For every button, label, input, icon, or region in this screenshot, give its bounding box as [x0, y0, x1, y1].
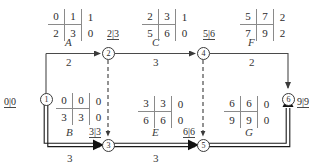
- matrix-cell: 3: [65, 25, 82, 41]
- matrix-cell: 7: [257, 9, 274, 25]
- node-1-time-label: 0|0: [4, 91, 16, 109]
- matrix-cell: 0: [48, 9, 65, 25]
- node-2[interactable]: 2: [102, 47, 115, 60]
- node-2-time-label: 2|3: [107, 23, 119, 41]
- node-3-label: 3: [107, 141, 111, 150]
- matrix-cell: 5: [240, 9, 257, 25]
- matrix-cell: 5: [142, 25, 159, 41]
- matrix-activity-f: 5 7 2 7 9 2: [240, 9, 291, 41]
- matrix-cell: 1: [176, 9, 193, 25]
- network-diagram: 1 2 3 4 5 6 A 2 C 3 F 2 B 3 E 3 G 0|0 2|…: [0, 0, 326, 168]
- matrix-cell: 0: [90, 109, 107, 125]
- matrix-activity-b: 0 0 0 3 3 0: [56, 93, 107, 125]
- node-1[interactable]: 1: [40, 93, 53, 106]
- matrix-cell: 6: [224, 96, 241, 112]
- activity-b-duration: 3: [67, 152, 73, 164]
- node-1-times: 0|0: [4, 96, 16, 108]
- matrix-cell: 0: [82, 25, 99, 41]
- matrix-cell: 3: [155, 96, 172, 112]
- node-6-times: 9|9: [297, 96, 309, 108]
- matrix-cell: 0: [258, 96, 275, 112]
- matrix-cell: 3: [56, 109, 73, 125]
- activity-c-duration: 3: [153, 56, 159, 68]
- matrix-cell: 0: [258, 112, 275, 128]
- matrix-cell: 9: [224, 112, 241, 128]
- node-6-time-label: 9|9: [297, 91, 309, 109]
- node-4-time-label: 5|6: [203, 23, 215, 41]
- node-2-label: 2: [107, 49, 111, 58]
- activity-a-duration: 2: [66, 56, 72, 68]
- matrix-cell: 3: [138, 96, 155, 112]
- node-4-times: 5|6: [203, 28, 215, 40]
- matrix-cell: 7: [240, 25, 257, 41]
- matrix-cell: 6: [138, 112, 155, 128]
- matrix-cell: 6: [241, 96, 258, 112]
- activity-f-duration: 2: [249, 56, 255, 68]
- activity-b-letter: B: [66, 126, 73, 138]
- node-2-times: 2|3: [107, 28, 119, 40]
- matrix-cell: 2: [274, 9, 291, 25]
- matrix-cell: 2: [274, 25, 291, 41]
- node-3[interactable]: 3: [102, 139, 115, 152]
- matrix-cell: 6: [159, 25, 176, 41]
- node-3-times: 3|3: [89, 126, 101, 138]
- matrix-cell: 0: [56, 93, 73, 109]
- matrix-cell: 0: [172, 96, 189, 112]
- matrix-cell: 3: [73, 109, 90, 125]
- node-4[interactable]: 4: [197, 47, 210, 60]
- matrix-cell: 0: [172, 112, 189, 128]
- matrix-cell: 2: [142, 9, 159, 25]
- matrix-cell: 6: [155, 112, 172, 128]
- node-5-label: 5: [202, 141, 206, 150]
- node-4-label: 4: [202, 49, 206, 58]
- matrix-cell: 0: [73, 93, 90, 109]
- node-1-label: 1: [45, 95, 49, 104]
- matrix-activity-g: 6 6 0 9 9 0: [224, 96, 275, 128]
- matrix-activity-e: 3 3 0 6 6 0: [138, 96, 189, 128]
- node-6[interactable]: 6: [282, 93, 295, 106]
- matrix-activity-a: 0 1 1 2 3 0: [48, 9, 99, 41]
- node-5[interactable]: 5: [197, 139, 210, 152]
- matrix-cell: 2: [48, 25, 65, 41]
- matrix-cell: 1: [65, 9, 82, 25]
- node-6-label: 6: [287, 95, 291, 104]
- matrix-cell: 0: [176, 25, 193, 41]
- matrix-cell: 1: [82, 9, 99, 25]
- matrix-activity-c: 2 3 1 5 6 0: [142, 9, 193, 41]
- matrix-cell: 3: [159, 9, 176, 25]
- matrix-cell: 9: [241, 112, 258, 128]
- matrix-cell: 0: [90, 93, 107, 109]
- activity-e-duration: 3: [153, 152, 159, 164]
- matrix-cell: 9: [257, 25, 274, 41]
